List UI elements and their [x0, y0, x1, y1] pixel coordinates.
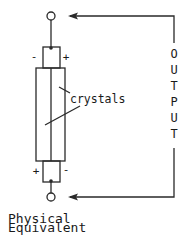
- top-terminal: [47, 12, 55, 20]
- output-letter-o: O: [170, 47, 177, 61]
- polarity-bottom-right: -: [63, 163, 70, 176]
- output-wire-top: [70, 16, 174, 43]
- output-letter-t1: T: [170, 79, 177, 93]
- crystals-leader-lower: [45, 106, 80, 125]
- top-electrode: [43, 47, 60, 68]
- polarity-bottom-left: +: [33, 165, 40, 178]
- bottom-terminal: [47, 193, 55, 201]
- bottom-electrode: [43, 161, 60, 182]
- polarity-top-left: -: [31, 50, 38, 63]
- caption-line-2: Equivalent: [8, 220, 86, 235]
- output-wire-bottom: [70, 148, 174, 197]
- bottom-junction-dot: [49, 179, 53, 183]
- piezo-physical-equivalent-diagram: - + + - crystals O U T P U T Physical Eq…: [0, 0, 187, 236]
- polarity-top-right: +: [63, 51, 70, 64]
- crystals-label: crystals: [70, 92, 125, 106]
- output-letter-u2: U: [170, 111, 177, 125]
- output-letter-p: P: [170, 95, 177, 109]
- output-letter-u1: U: [170, 63, 177, 77]
- output-letter-t2: T: [170, 127, 177, 141]
- top-junction-dot: [49, 46, 53, 50]
